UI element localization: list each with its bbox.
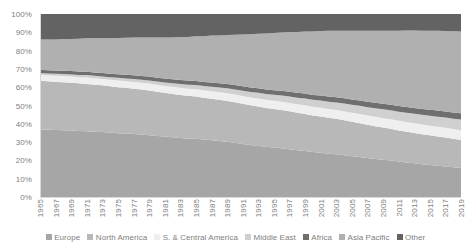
- legend-swatch-icon: [339, 234, 345, 240]
- x-axis-tick-label: 1987: [208, 199, 217, 217]
- legend-item[interactable]: Middle East: [245, 233, 296, 242]
- x-axis-tick-label: 1981: [161, 199, 170, 217]
- legend-item-label: Europe: [54, 233, 80, 242]
- y-axis-tick-label: 20%: [16, 156, 32, 165]
- x-axis-tick-label: 1991: [239, 199, 248, 217]
- x-axis-tick-label: 1969: [67, 199, 76, 217]
- legend-item[interactable]: North America: [87, 233, 147, 242]
- y-axis-tick-labels: 100%90%80%70%60%50%40%30%20%10%0%: [0, 14, 36, 197]
- legend-swatch-icon: [87, 234, 93, 240]
- y-axis-tick-label: 100%: [11, 10, 32, 19]
- y-axis-tick-label: 60%: [16, 83, 32, 92]
- x-axis-tick-label: 1989: [223, 199, 232, 217]
- x-axis-tick-label: 2009: [379, 199, 388, 217]
- plot-area: [40, 14, 461, 197]
- x-axis-tick-label: 2011: [395, 199, 404, 217]
- y-axis-line: [40, 14, 41, 197]
- x-axis-tick-label: 1977: [130, 199, 139, 217]
- y-axis-tick-label: 70%: [16, 64, 32, 73]
- x-axis-tick-label: 2017: [441, 199, 450, 217]
- legend-item-label: S. & Central America: [163, 233, 238, 242]
- x-axis-tick-label: 1971: [83, 199, 92, 217]
- x-axis-tick-label: 2003: [332, 199, 341, 217]
- x-axis-tick-label: 2013: [410, 199, 419, 217]
- x-axis-tick-label: 1979: [145, 199, 154, 217]
- x-axis-tick-label: 1997: [285, 199, 294, 217]
- y-axis-tick-label: 0%: [20, 193, 32, 202]
- legend-item-label: Other: [405, 233, 425, 242]
- legend-item[interactable]: Asia Pacific: [339, 233, 389, 242]
- y-axis-tick-label: 80%: [16, 46, 32, 55]
- legend-swatch-icon: [46, 234, 52, 240]
- x-axis-tick-label: 1985: [192, 199, 201, 217]
- x-axis-tick-label: 1965: [36, 199, 45, 217]
- y-axis-tick-label: 90%: [16, 28, 32, 37]
- x-axis-tick-label: 1983: [176, 199, 185, 217]
- x-axis-tick-label: 1995: [270, 199, 279, 217]
- x-axis-tick-labels: 1965196719691971197319751977197919811983…: [40, 199, 461, 225]
- legend-swatch-icon: [397, 234, 403, 240]
- y-axis-tick-label: 30%: [16, 138, 32, 147]
- x-axis-tick-label: 2001: [317, 199, 326, 217]
- x-axis-tick-label: 1973: [98, 199, 107, 217]
- stacked-area-chart: 100%90%80%70%60%50%40%30%20%10%0% 196519…: [0, 0, 471, 250]
- x-axis-tick-label: 1967: [52, 199, 61, 217]
- x-axis-tick-label: 2007: [363, 199, 372, 217]
- x-axis-tick-label: 1975: [114, 199, 123, 217]
- legend-item-label: North America: [96, 233, 147, 242]
- legend-item[interactable]: S. & Central America: [154, 233, 238, 242]
- chart-legend: EuropeNorth AmericaS. & Central AmericaM…: [0, 230, 471, 244]
- y-axis-tick-label: 50%: [16, 101, 32, 110]
- area-series-svg: [40, 14, 461, 197]
- legend-item[interactable]: Europe: [46, 233, 81, 242]
- legend-item[interactable]: Africa: [303, 233, 332, 242]
- legend-swatch-icon: [154, 234, 160, 240]
- legend-item-label: Africa: [311, 233, 332, 242]
- x-axis-tick-label: 2005: [348, 199, 357, 217]
- legend-item-label: Asia Pacific: [348, 233, 390, 242]
- legend-swatch-icon: [245, 234, 251, 240]
- y-axis-tick-label: 40%: [16, 119, 32, 128]
- x-axis-tick-label: 2015: [426, 199, 435, 217]
- legend-item-label: Middle East: [253, 233, 295, 242]
- x-axis-tick-label: 1999: [301, 199, 310, 217]
- legend-swatch-icon: [303, 234, 309, 240]
- y-axis-tick-label: 10%: [16, 174, 32, 183]
- legend-item[interactable]: Other: [397, 233, 426, 242]
- x-axis-tick-label: 2019: [457, 199, 466, 217]
- x-axis-tick-label: 1993: [254, 199, 263, 217]
- plot-frame: [40, 14, 461, 197]
